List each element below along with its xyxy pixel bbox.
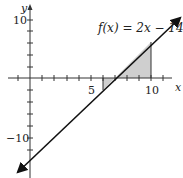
x-tick-label-5: 5 (88, 84, 95, 97)
y-axis: y 10 −10 (6, 2, 33, 178)
shaded-area (103, 42, 151, 90)
x-tick-label-10: 10 (145, 84, 159, 97)
function-label: f(x) = 2x − 14 (97, 21, 183, 35)
function-graph: 5 10 x y 10 −10 f(x) = 2x − 14 (0, 0, 183, 178)
y-tick-label-neg10: −10 (6, 132, 29, 145)
x-axis-label: x (175, 81, 182, 94)
y-tick-label-10: 10 (13, 14, 27, 27)
x-axis: 5 10 x (8, 75, 182, 97)
